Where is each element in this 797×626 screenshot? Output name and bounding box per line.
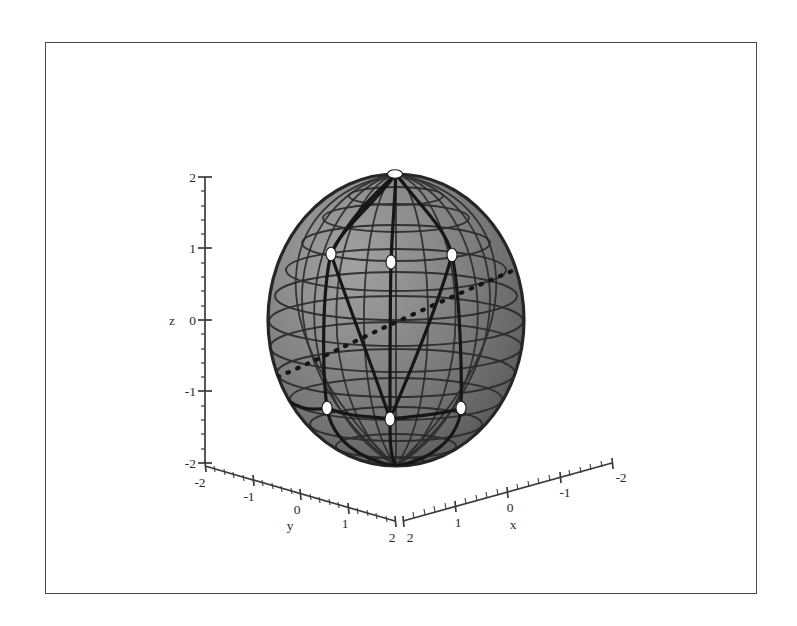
figure-root: 2 1 0 -1 -2 z xyxy=(0,0,797,626)
plot-frame-border xyxy=(45,42,757,594)
